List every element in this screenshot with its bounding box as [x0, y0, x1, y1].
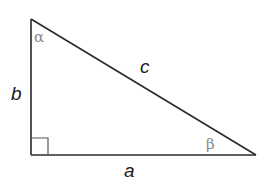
angle-alpha-label: α: [34, 28, 44, 46]
side-c-hypotenuse-line: [31, 19, 256, 155]
side-c-label: c: [140, 56, 150, 77]
side-a-label: a: [124, 160, 135, 181]
right-triangle-diagram: b c a α β: [0, 0, 279, 185]
side-b-label: b: [11, 83, 22, 104]
angle-beta-label: β: [206, 135, 215, 153]
triangle-figure: b c a α β: [0, 0, 279, 185]
right-angle-marker: [31, 138, 48, 155]
